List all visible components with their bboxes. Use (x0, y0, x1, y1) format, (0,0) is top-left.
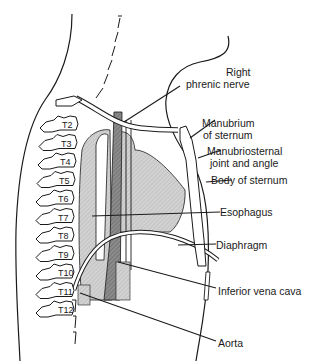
label-manubrium: Manubrium (202, 117, 255, 129)
vertebra-label-t12: T12 (58, 305, 74, 315)
vertebra-label-t6: T6 (58, 194, 69, 204)
label-body-of-sternum: Body of sternum (211, 174, 287, 186)
vertebra-label-t11: T11 (58, 287, 73, 297)
label-manubrium-2: of sternum (203, 129, 253, 141)
cervical-spine (96, 16, 122, 98)
label-right-phrenic-nerve-2: phrenic nerve (186, 78, 250, 90)
vertebra-label-t7: T7 (58, 213, 69, 223)
label-right-phrenic-nerve: Right (226, 66, 251, 78)
aorta-shape (78, 285, 90, 305)
label-diaphragm: Diaphragm (216, 239, 267, 251)
label-manubriosternal-2: joint and angle (210, 157, 278, 169)
label-aorta: Aorta (218, 337, 243, 349)
label-esophagus: Esophagus (220, 206, 273, 218)
label-inferior-vena-cava: Inferior vena cava (218, 285, 301, 297)
ivc-shape (116, 262, 130, 300)
vertebra-label-t10: T10 (58, 268, 74, 278)
thoracic-vertebrae (56, 96, 82, 106)
vertebra-label-t8: T8 (58, 231, 69, 241)
vertebra-label-t4: T4 (60, 157, 71, 167)
vertebra-label-t5: T5 (59, 176, 70, 186)
thorax-diagram: T2T3T4T5T6T7T8T9T10T11T12 Right phrenic … (0, 0, 313, 361)
vertebra-label-t9: T9 (58, 250, 69, 260)
heart (118, 132, 185, 232)
vertebra-label-t3: T3 (61, 139, 72, 149)
label-manubriosternal: Manubriosternal (207, 145, 282, 157)
vertebra-label-t2: T2 (62, 120, 73, 130)
